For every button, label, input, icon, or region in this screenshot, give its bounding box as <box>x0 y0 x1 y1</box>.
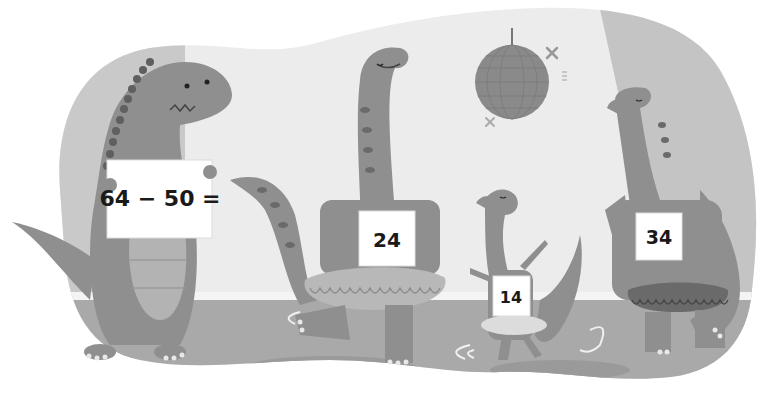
bib-34: 34 <box>636 213 682 260</box>
bib-number-text: 24 <box>373 228 401 252</box>
math-question-sign: 64 − 50 = <box>99 160 220 238</box>
dino-dance-illustration: 64 − 50 = 24 <box>0 0 764 394</box>
sign-equation-text: 64 − 50 = <box>99 186 220 211</box>
bib-number-text: 34 <box>646 226 672 248</box>
bib-number-text: 14 <box>500 288 522 307</box>
bib-14: 14 <box>493 276 530 316</box>
bib-24: 24 <box>359 211 415 266</box>
